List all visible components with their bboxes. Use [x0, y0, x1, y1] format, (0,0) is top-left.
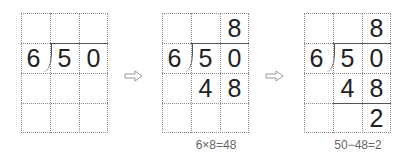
- product-digit: 4: [191, 73, 220, 103]
- dividend-digit: 5: [333, 43, 362, 73]
- remainder-digit: [333, 103, 362, 133]
- step-3-caption: 50−48=2: [313, 138, 403, 152]
- step-2-caption: 6×8=48: [171, 138, 261, 152]
- remainder-digit: 2: [362, 103, 391, 133]
- quotient-digit: [191, 13, 220, 43]
- quotient-digit: [50, 13, 79, 43]
- dividend-digit: 0: [362, 43, 391, 73]
- quotient-digit: [333, 13, 362, 43]
- division-grid-step-3: 8 6 5 0 4 8 2: [304, 13, 391, 133]
- product-digit: 8: [362, 73, 391, 103]
- dividend-digit: 5: [50, 43, 79, 73]
- quotient-digit: 8: [220, 13, 249, 43]
- quotient-digit: [162, 13, 191, 43]
- divisor: 6: [19, 43, 48, 73]
- quotient-digit: [304, 13, 333, 43]
- division-grid-step-1: 6 5 0: [21, 13, 108, 133]
- product-digit: 8: [220, 73, 249, 103]
- right-arrow-icon: [265, 70, 285, 82]
- product-digit: 4: [333, 73, 362, 103]
- remainder-digit: [304, 103, 333, 133]
- product-digit: [162, 73, 191, 103]
- product-digit: [304, 73, 333, 103]
- quotient-digit: [21, 13, 50, 43]
- dividend-digit: 0: [220, 43, 249, 73]
- dividend-digit: 0: [79, 43, 108, 73]
- dividend-digit: 5: [191, 43, 220, 73]
- division-grid-step-2: 8 6 5 0 4 8: [162, 13, 249, 133]
- right-arrow-icon: [124, 70, 144, 82]
- quotient-digit: [79, 13, 108, 43]
- divisor: 6: [160, 43, 189, 73]
- quotient-digit: 8: [362, 13, 391, 43]
- divisor: 6: [302, 43, 331, 73]
